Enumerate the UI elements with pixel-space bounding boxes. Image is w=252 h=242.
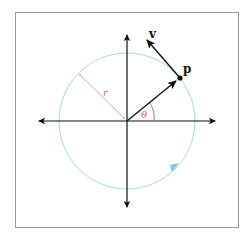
angle-label: θ <box>141 109 147 120</box>
position-vector <box>127 81 176 121</box>
point-p-label: p <box>183 62 191 76</box>
radius-endpoint <box>123 117 125 119</box>
radius-line <box>80 75 124 118</box>
angle-arc <box>150 103 154 121</box>
direction-arrowhead-icon <box>170 163 179 172</box>
velocity-label: v <box>148 27 157 41</box>
radius-endpoint <box>79 74 81 76</box>
point-p <box>177 75 182 80</box>
radius-label: r <box>103 87 109 98</box>
circular-motion-diagram: r θ p v <box>0 0 252 242</box>
velocity-vector <box>147 40 180 78</box>
